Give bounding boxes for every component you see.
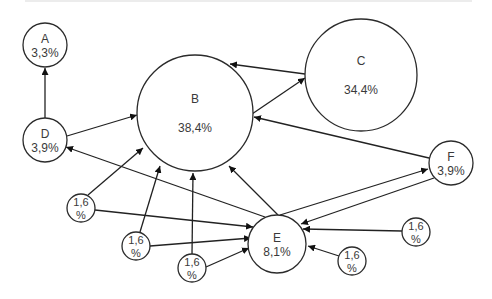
arrow-e-to-f [280,169,428,215]
node-value: % [76,209,86,221]
arrow-s3-to-b [192,173,193,254]
diagram-canvas: A3,3%B38,4%C34,4%D3,9%E8,1%F3,9%1,6%1,6%… [0,0,492,299]
node-value: 3,9% [31,141,59,155]
nodes-layer: A3,3%B38,4%C34,4%D3,9%E8,1%F3,9%1,6%1,6%… [23,19,473,282]
node-circle [137,55,253,171]
arrow-s5-to-e [308,246,339,256]
node-label: A [41,32,49,46]
node-label: C [357,54,366,68]
network-graph: A3,3%B38,4%C34,4%D3,9%E8,1%F3,9%1,6%1,6%… [0,0,492,299]
node-value: 8,1% [263,245,291,259]
node-value: 3,3% [31,46,59,60]
arrow-s2-to-e [150,238,251,246]
node-s5: 1,6% [338,247,366,275]
node-label: F [447,150,454,164]
node-value: % [411,233,421,245]
arrow-s3-to-e [206,248,249,267]
node-value: % [131,247,141,259]
arrow-b-to-c [252,78,305,114]
node-label: 1,6 [184,256,199,268]
node-label: 1,6 [73,196,88,208]
node-s3: 1,6% [178,254,206,282]
node-label: E [273,231,281,245]
node-s4: 1,6% [402,218,430,246]
node-circle [305,19,417,131]
node-label: D [41,127,50,141]
node-b: B38,4% [137,55,253,171]
arrow-d-to-b [67,115,137,136]
node-label: 1,6 [128,234,143,246]
arrow-f-to-e [301,178,434,224]
node-s2: 1,6% [122,232,150,260]
node-value: 34,4% [344,83,378,97]
node-c: C34,4% [305,19,417,131]
arrow-s1-to-e [95,210,253,227]
node-e: E8,1% [248,215,306,273]
node-s1: 1,6% [67,194,95,222]
node-label: 1,6 [408,220,423,232]
node-a: A3,3% [23,23,67,67]
arrow-e-to-b [229,166,278,215]
arrow-s4-to-e [303,229,402,231]
node-label: 1,6 [344,249,359,261]
node-d: D3,9% [23,118,67,162]
node-value: 3,9% [437,164,465,178]
node-value: 38,4% [178,121,212,135]
node-f: F3,9% [429,141,473,185]
arrow-c-to-b [230,64,305,74]
node-value: % [187,269,197,281]
node-label: B [191,92,199,106]
node-value: % [347,262,357,274]
